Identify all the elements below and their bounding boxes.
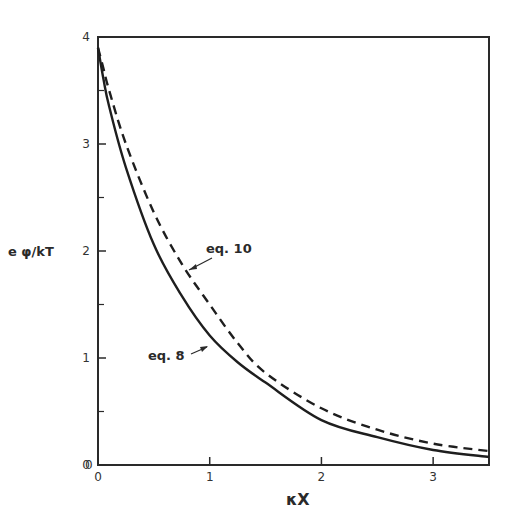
y-axis-ticks: 01234	[82, 30, 106, 472]
chart: 01234 0123 e φ/kT κX 0 eq. 10 eq. 8	[0, 0, 518, 527]
series-line-eq-8	[98, 48, 489, 457]
x-axis-ticks: 0123	[94, 457, 437, 484]
x-axis-label: κX	[286, 490, 310, 509]
y-tick-label: 4	[82, 30, 90, 44]
x-tick-label: 0	[94, 470, 102, 484]
annotation-eq10: eq. 10	[189, 241, 252, 270]
eq8-arrowhead-icon	[200, 346, 208, 352]
y-tick-label: 1	[82, 351, 90, 365]
annotation-eq8: eq. 8	[148, 346, 208, 363]
x-tick-label: 2	[318, 470, 326, 484]
series-layer	[98, 48, 489, 457]
y-tick-label: 2	[82, 244, 90, 258]
eq10-label: eq. 10	[206, 241, 252, 256]
eq8-label: eq. 8	[148, 348, 185, 363]
x-tick-label: 3	[429, 470, 437, 484]
y-axis-label: e φ/kT	[8, 244, 54, 259]
x-origin-extra-label: 0	[85, 458, 93, 472]
y-tick-label: 3	[82, 137, 90, 151]
eq10-arrowhead-icon	[189, 264, 197, 270]
x-tick-label: 1	[206, 470, 214, 484]
